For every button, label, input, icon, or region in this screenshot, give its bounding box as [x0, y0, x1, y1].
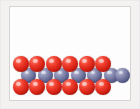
blue-sphere [115, 68, 130, 83]
sphere-highlight [16, 82, 21, 86]
sphere-highlight [91, 71, 95, 75]
sphere-highlight [58, 71, 62, 75]
red-sphere [13, 56, 29, 72]
sphere-highlight [33, 82, 38, 86]
sphere-highlight [66, 82, 71, 86]
sphere-highlight [25, 71, 29, 75]
red-sphere [62, 56, 78, 72]
sphere-highlight [41, 71, 45, 75]
red-sphere [95, 79, 111, 95]
red-sphere [79, 56, 95, 72]
red-sphere [79, 79, 95, 95]
sphere-highlight [33, 59, 38, 63]
lattice-sphere-canvas [10, 7, 130, 100]
red-sphere [29, 56, 45, 72]
sphere-highlight [107, 71, 111, 75]
sphere-highlight [99, 59, 104, 63]
figure-frame: Close-packed sphere model of an ionic cr… [9, 6, 131, 101]
sphere-highlight [74, 71, 78, 75]
sphere-highlight [16, 59, 21, 63]
red-sphere [29, 79, 45, 95]
red-sphere [95, 56, 111, 72]
sphere-highlight [99, 82, 104, 86]
sphere-highlight [66, 59, 71, 63]
red-sphere [62, 79, 78, 95]
red-sphere [13, 79, 29, 95]
sphere-highlight [49, 59, 54, 63]
red-sphere [46, 79, 62, 95]
sphere-highlight [119, 71, 123, 75]
red-sphere [46, 56, 62, 72]
sphere-highlight [82, 82, 87, 86]
sphere-highlight [49, 82, 54, 86]
figure-root: Close-packed sphere model of an ionic cr… [0, 0, 140, 109]
sphere-highlight [82, 59, 87, 63]
